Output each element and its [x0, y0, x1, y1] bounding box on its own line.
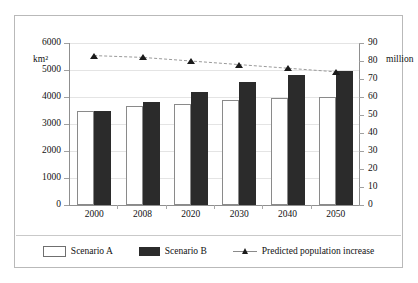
- trend-marker: [284, 65, 292, 71]
- left-axis-tick-label: 0: [21, 200, 61, 210]
- trend-marker: [235, 62, 243, 68]
- trend-marker: [139, 54, 147, 60]
- left-axis-tick-label: 2000: [21, 146, 61, 156]
- right-axis-tick-label: 90: [368, 38, 408, 48]
- right-axis-tick-label: 10: [368, 182, 408, 192]
- legend-label: Predicted population increase: [262, 246, 374, 256]
- left-axis-unit-label: km²: [33, 54, 48, 64]
- plot-area: 0100020003000400050006000 01020304050607…: [69, 43, 359, 205]
- chart-frame: km² million 0100020003000400050006000 01…: [14, 15, 403, 268]
- legend-item-population: Predicted population increase: [233, 246, 374, 256]
- trend-marker: [90, 53, 98, 59]
- legend-item-scenario-b: Scenario B: [139, 246, 207, 256]
- legend-item-scenario-a: Scenario A: [43, 246, 113, 257]
- open-square-swatch-icon: [43, 246, 66, 257]
- filled-square-swatch-icon: [139, 247, 160, 256]
- x-axis-tick-label: 2050: [306, 209, 366, 219]
- left-axis-tick-label: 1000: [21, 173, 61, 183]
- trend-marker: [332, 69, 340, 75]
- trend-marker: [187, 58, 195, 64]
- left-axis-tick-label: 3000: [21, 119, 61, 129]
- right-axis-tick-label: 0: [368, 200, 408, 210]
- chart-legend: Scenario A Scenario B Predicted populati…: [16, 235, 401, 266]
- right-axis-tick-label: 50: [368, 110, 408, 120]
- right-axis-tick-label: 40: [368, 128, 408, 138]
- right-axis-tick-label: 20: [368, 164, 408, 174]
- triangle-line-swatch-icon: [233, 247, 257, 256]
- left-axis-tick-label: 5000: [21, 65, 61, 75]
- legend-label: Scenario B: [165, 246, 207, 256]
- trend-line: [69, 43, 360, 206]
- legend-label: Scenario A: [71, 246, 113, 256]
- left-axis-tick-label: 4000: [21, 92, 61, 102]
- right-axis-tick-label: 60: [368, 92, 408, 102]
- right-axis-tick-label: 80: [368, 56, 408, 66]
- right-axis-tick-label: 70: [368, 74, 408, 84]
- left-axis-tick-label: 6000: [21, 38, 61, 48]
- right-axis-tick-label: 30: [368, 146, 408, 156]
